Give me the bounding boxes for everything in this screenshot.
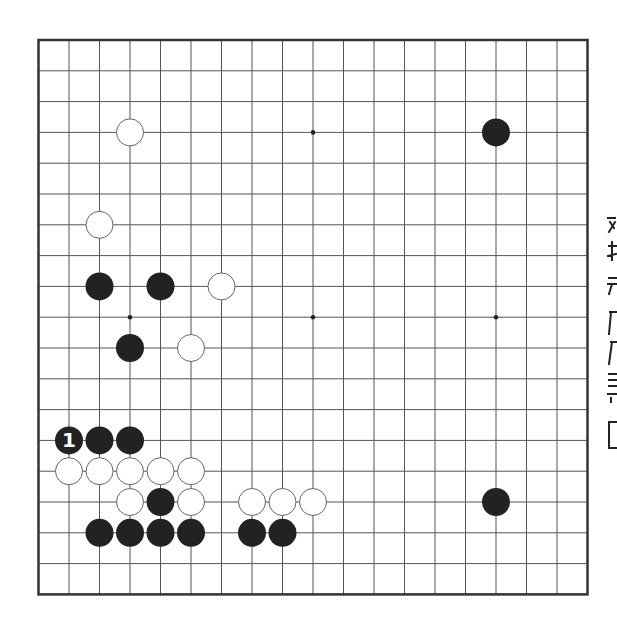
move-number-label: 1 — [62, 428, 76, 452]
white-stone — [178, 489, 205, 516]
white-stone — [178, 458, 205, 485]
white-stone — [239, 489, 266, 516]
black-stone — [482, 488, 510, 516]
black-stone — [147, 519, 175, 547]
white-stone — [117, 119, 144, 146]
clipped-side-text — [606, 212, 617, 457]
black-stone — [269, 519, 297, 547]
go-board: 1 — [0, 0, 617, 643]
white-stone — [86, 211, 113, 238]
black-stone — [238, 519, 266, 547]
black-stone — [482, 118, 510, 146]
side-text-fragments — [606, 212, 617, 457]
black-stone: 1 — [55, 426, 83, 454]
black-stone — [177, 519, 205, 547]
black-stone — [86, 426, 114, 454]
black-stone — [116, 334, 144, 362]
black-stone — [86, 272, 114, 300]
black-stone — [147, 488, 175, 516]
white-stone — [56, 458, 83, 485]
white-stone — [178, 335, 205, 362]
black-stone — [147, 272, 175, 300]
black-stone — [116, 426, 144, 454]
star-point — [128, 315, 133, 320]
star-point — [494, 315, 499, 320]
white-stone — [147, 458, 174, 485]
star-point — [311, 315, 316, 320]
black-stone — [86, 519, 114, 547]
star-point — [311, 130, 316, 135]
white-stone — [117, 489, 144, 516]
white-stone — [208, 273, 235, 300]
white-stone — [86, 458, 113, 485]
black-stone — [116, 519, 144, 547]
white-stone — [117, 458, 144, 485]
white-stone — [269, 489, 296, 516]
white-stone — [300, 489, 327, 516]
